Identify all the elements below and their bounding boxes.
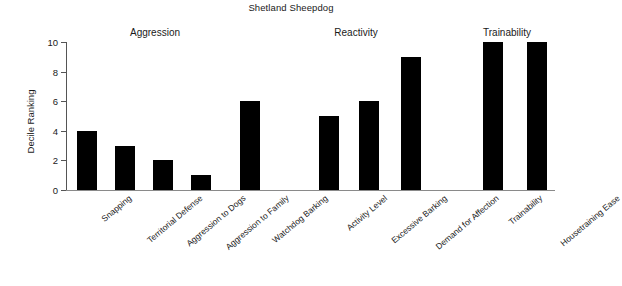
bar — [77, 131, 97, 190]
x-axis-label: Snapping — [99, 193, 133, 224]
x-axis-label: Trainability — [507, 193, 545, 227]
y-tick-label-4: 4 — [34, 125, 58, 136]
x-axis-line — [66, 190, 555, 191]
group-label: Trainability — [483, 27, 531, 38]
bar — [483, 42, 503, 190]
bar — [115, 146, 135, 190]
group-label: Reactivity — [334, 27, 377, 38]
group-label: Aggression — [130, 27, 180, 38]
y-tick-label-2: 2 — [34, 155, 58, 166]
bar — [153, 160, 173, 190]
bar — [527, 42, 547, 190]
bar — [319, 116, 339, 190]
bar — [401, 57, 421, 190]
bar — [359, 101, 379, 190]
y-tick-label-10: 10 — [34, 37, 58, 48]
y-tick-label-0: 0 — [34, 185, 58, 196]
bar — [240, 101, 260, 190]
x-axis-label: Activity Level — [345, 193, 389, 233]
x-axis-label: Housetraining Ease — [558, 193, 621, 248]
bar — [191, 175, 211, 190]
y-axis-line — [66, 42, 67, 191]
y-tick-label-8: 8 — [34, 66, 58, 77]
y-tick-label-6: 6 — [34, 96, 58, 107]
